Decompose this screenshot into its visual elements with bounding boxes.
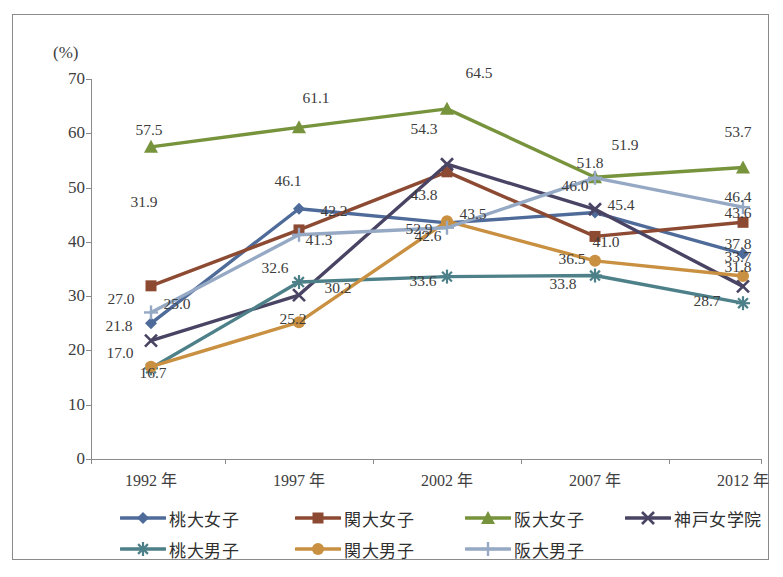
legend-label: 関大女子	[344, 506, 414, 531]
legend-item-関大女子[interactable]: 関大女子	[295, 507, 414, 529]
diamond-marker-icon	[120, 510, 166, 526]
x-axis-label-0: 1992 年	[125, 467, 177, 491]
data-label: 25.0	[163, 295, 190, 313]
x-axis-label-3: 2007 年	[569, 467, 621, 491]
data-label: 46.0	[561, 177, 588, 195]
x-axis-label-1: 1997 年	[273, 467, 325, 491]
x-axis-tick	[761, 459, 762, 464]
y-axis-tick-label: 50	[68, 178, 85, 198]
circle-marker-icon	[295, 541, 341, 557]
data-label: 57.5	[135, 121, 162, 139]
data-label: 28.7	[693, 292, 720, 310]
data-label: 46.4	[724, 188, 751, 206]
data-label: 46.1	[274, 172, 301, 190]
x-marker-icon	[625, 510, 671, 526]
legend-label: 桃大女子	[169, 506, 239, 531]
y-axis-tick-label: 10	[68, 395, 85, 415]
data-label: 43.5	[459, 205, 486, 223]
legend-label: 阪大女子	[514, 506, 584, 531]
legend-item-阪大女子[interactable]: 阪大女子	[465, 507, 584, 529]
data-label: 21.8	[105, 317, 132, 335]
series-4	[144, 269, 750, 376]
data-label: 36.5	[558, 250, 585, 268]
asterisk-marker-icon	[120, 541, 166, 557]
legend-label: 桃大男子	[169, 537, 239, 562]
data-label: 17.0	[106, 344, 133, 362]
chart-legend: 桃大女子関大女子阪大女子神戸女学院桃大男子関大男子阪大男子	[25, 507, 770, 569]
data-label: 42.6	[414, 227, 441, 245]
legend-label: 阪大男子	[514, 537, 584, 562]
legend-label: 関大男子	[344, 537, 414, 562]
data-label: 33.8	[549, 275, 576, 293]
series-6	[144, 171, 750, 320]
data-label: 16.7	[139, 364, 166, 382]
y-axis-tick-label: 20	[68, 340, 85, 360]
legend-label: 神戸女学院	[674, 506, 762, 531]
x-axis-label-2: 2002 年	[421, 467, 473, 491]
data-label: 25.2	[279, 310, 306, 328]
data-label: 27.0	[107, 290, 134, 308]
data-label: 54.3	[410, 120, 437, 138]
y-axis-tick-label: 70	[68, 69, 85, 89]
y-axis-tick-label: 60	[68, 123, 85, 143]
chart-frame: (%) 706050403020100 1992 年1997 年2002 年20…	[12, 14, 769, 560]
data-label: 41.3	[305, 231, 332, 249]
legend-item-神戸女学院[interactable]: 神戸女学院	[625, 507, 762, 529]
data-label: 64.5	[465, 64, 492, 82]
data-label: 33.6	[409, 272, 436, 290]
triangle-marker-icon	[465, 510, 511, 526]
x-axis-label-4: 2012 年	[717, 467, 769, 491]
y-axis-unit-label: (%)	[53, 43, 78, 63]
plus-marker-icon	[465, 541, 511, 557]
data-label: 43.8	[410, 186, 437, 204]
legend-item-阪大男子[interactable]: 阪大男子	[465, 538, 584, 560]
square-marker-icon	[295, 510, 341, 526]
data-label: 42.2	[320, 202, 347, 220]
legend-item-桃大男子[interactable]: 桃大男子	[120, 538, 239, 560]
data-label: 51.8	[576, 154, 603, 172]
data-label: 41.0	[592, 233, 619, 251]
y-axis-tick-label: 30	[68, 286, 85, 306]
legend-item-桃大女子[interactable]: 桃大女子	[120, 507, 239, 529]
y-axis-tick-label: 0	[77, 449, 86, 469]
legend-item-関大男子[interactable]: 関大男子	[295, 538, 414, 560]
data-label: 33.7	[724, 248, 751, 266]
data-label: 43.6	[724, 204, 751, 222]
series-5	[145, 215, 749, 372]
data-label: 51.9	[611, 136, 638, 154]
data-label: 61.1	[302, 89, 329, 107]
data-label: 53.7	[724, 123, 751, 141]
data-label: 32.6	[261, 259, 288, 277]
data-label: 31.9	[130, 193, 157, 211]
y-axis-tick-labels: 706050403020100	[49, 79, 85, 460]
data-label: 45.4	[607, 196, 634, 214]
data-label: 30.2	[324, 279, 351, 297]
y-axis-tick-label: 40	[68, 232, 85, 252]
